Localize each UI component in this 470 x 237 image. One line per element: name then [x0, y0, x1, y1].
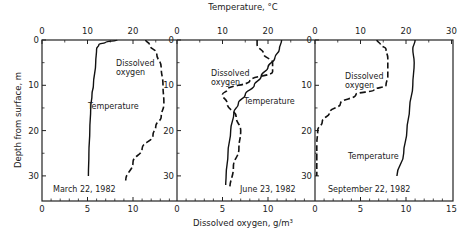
top-tick-label: 0 [39, 26, 44, 36]
y-tick-label: 0 [34, 35, 39, 45]
panel1-do-label-2: oxygen [116, 68, 145, 77]
top-tick-label: 10 [82, 26, 93, 36]
bottom-tick-label: 5 [85, 204, 90, 214]
bottom-tick-label: 5 [358, 204, 363, 214]
bottom-axis-title: Dissolved oxygen, g/m³ [193, 218, 293, 228]
y-tick-label: 10 [301, 80, 312, 90]
panel1-temp-label: Temperature [87, 102, 139, 111]
y-tick-label: 0 [169, 35, 174, 45]
y-tick-label: 0 [307, 35, 312, 45]
bottom-tick-label: 15 [446, 204, 457, 214]
y-tick-label: 10 [163, 80, 174, 90]
top-axis-title: Temperature, °C [207, 2, 277, 12]
bottom-tick-label: 5 [220, 204, 225, 214]
y-tick-label: 20 [301, 126, 312, 136]
depth-profile-chart: 0001010102020203030300102005100102005100… [0, 0, 470, 237]
plot-border [42, 40, 453, 201]
bottom-tick-label: 0 [39, 204, 44, 214]
top-tick-label: 10 [355, 26, 366, 36]
y-tick-label: 20 [28, 126, 39, 136]
panel2-date: June 23, 1982 [239, 185, 296, 194]
top-tick-label: 20 [263, 26, 274, 36]
top-tick-label: 20 [128, 26, 139, 36]
panel2-temp-label: Temperature [243, 97, 295, 106]
panel2-do-label-2: oxygen [211, 78, 240, 87]
top-tick-label: 20 [401, 26, 412, 36]
panel1-do-label-1: Dissolved [116, 59, 155, 68]
panel2-do-label-1: Dissolved [211, 69, 250, 78]
panel3-date: September 22, 1982 [328, 185, 410, 194]
top-tick-label: 30 [446, 26, 457, 36]
top-tick-label: 10 [217, 26, 228, 36]
top-tick-label: 0 [174, 26, 179, 36]
plot-frame [42, 40, 453, 201]
y-tick-label: 10 [28, 80, 39, 90]
panel3-do-label-2: oxygen [345, 81, 374, 90]
y-axis-title: Depth from surface, m [13, 72, 23, 168]
bottom-tick-label: 0 [312, 204, 317, 214]
bottom-tick-label: 10 [263, 204, 274, 214]
bottom-tick-label: 10 [401, 204, 412, 214]
y-tick-label: 30 [301, 171, 312, 181]
temperature-curve [397, 40, 415, 176]
y-tick-label: 30 [28, 171, 39, 181]
panel1-date: March 22, 1982 [53, 185, 116, 194]
panel3-temp-label: Temperature [347, 152, 399, 161]
y-tick-label: 20 [163, 126, 174, 136]
bottom-tick-label: 0 [174, 204, 179, 214]
bottom-tick-label: 10 [128, 204, 139, 214]
y-tick-label: 30 [163, 171, 174, 181]
panel3-do-label-1: Dissolved [345, 72, 384, 81]
top-tick-label: 0 [312, 26, 317, 36]
dissolved-oxygen-curve [223, 40, 273, 190]
